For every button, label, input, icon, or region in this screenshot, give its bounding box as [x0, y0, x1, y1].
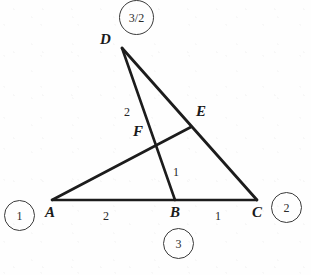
segment-length-DF: 2	[124, 106, 130, 118]
vertex-label-C: C	[252, 205, 262, 220]
circled-note-right: 2	[271, 192, 302, 223]
circled-note-left: 1	[4, 200, 35, 231]
geometry-figure: D E F A B C 2 1 2 1 3/2 1 2 3	[0, 0, 311, 275]
vertex-label-F: F	[133, 124, 143, 139]
segment-DB	[122, 48, 175, 200]
geometry-canvas	[0, 0, 311, 275]
segment-length-AB: 2	[103, 210, 109, 222]
circled-note-bottom: 3	[163, 228, 194, 259]
vertex-label-A: A	[45, 205, 55, 220]
vertex-label-E: E	[196, 104, 206, 119]
vertex-label-B: B	[170, 205, 180, 220]
segment-length-BC: 1	[215, 210, 221, 222]
vertex-label-D: D	[100, 32, 111, 47]
circled-note-top: 3/2	[119, 0, 154, 35]
segment-length-FB: 1	[173, 166, 179, 178]
